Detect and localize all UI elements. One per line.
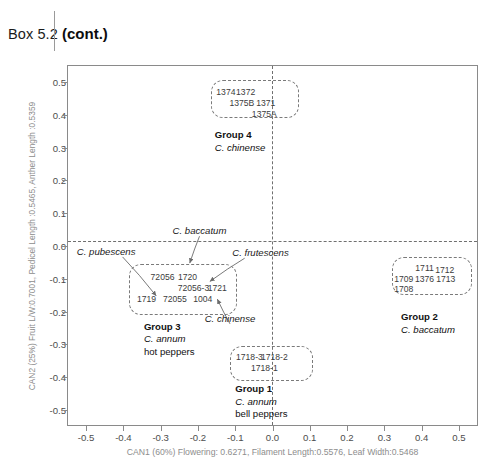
accession-label: 1713 bbox=[436, 274, 455, 284]
group-name: Group 2 bbox=[401, 311, 455, 324]
species-label-c-baccatum: C. baccatum bbox=[173, 225, 227, 236]
x-tick-mark bbox=[422, 426, 423, 431]
accession-label: 1375B bbox=[229, 98, 254, 108]
accession-label: 1004 bbox=[193, 294, 212, 304]
group-caption-group-4: Group 4C. chinense bbox=[215, 129, 266, 154]
accession-label: 1372 bbox=[236, 87, 255, 97]
box-number-label: Box 5.2 bbox=[8, 26, 58, 42]
group-species: C. baccatum bbox=[401, 324, 455, 337]
species-label-c-chinense: C. chinense bbox=[205, 313, 256, 324]
group-common-name: hot peppers bbox=[144, 346, 195, 359]
accession-label: 1721 bbox=[208, 283, 227, 293]
x-tick-mark bbox=[273, 426, 274, 431]
y-tick-label: -0.1 bbox=[26, 273, 66, 284]
accession-label: 1718-1 bbox=[251, 363, 278, 373]
group-species: C. annum bbox=[235, 396, 287, 409]
x-tick-mark bbox=[123, 426, 124, 431]
accession-label: 1708 bbox=[394, 284, 413, 294]
x-axis-title: CAN1 (60%) Flowering: 0.6271, Filament L… bbox=[67, 447, 478, 457]
x-tick-mark bbox=[310, 426, 311, 431]
group-name: Group 4 bbox=[215, 129, 266, 142]
accession-label: 72056-3 bbox=[178, 283, 210, 293]
accession-label: 1719 bbox=[137, 294, 156, 304]
x-tick-mark bbox=[161, 426, 162, 431]
y-tick-label: 0.1 bbox=[26, 208, 66, 219]
y-tick-label: 0.0 bbox=[26, 241, 66, 252]
y-tick-label: 0.4 bbox=[26, 109, 66, 120]
species-label-c-frutescens: C. frutescens bbox=[232, 247, 289, 258]
group-species: C. chinense bbox=[215, 142, 266, 155]
accession-label: 1375A bbox=[252, 109, 277, 119]
group-common-name: bell peppers bbox=[235, 408, 287, 421]
accession-label: 1711 bbox=[415, 263, 433, 273]
group-species: C. annum bbox=[144, 333, 195, 346]
species-label-c-pubescens: C. pubescens bbox=[77, 246, 136, 257]
header-divider bbox=[54, 11, 55, 51]
y-tick-label: -0.4 bbox=[26, 372, 66, 383]
group-name: Group 3 bbox=[144, 321, 195, 334]
group-caption-group-1: Group 1C. annumbell peppers bbox=[235, 383, 287, 421]
group-caption-group-2: Group 2C. baccatum bbox=[401, 311, 455, 336]
accession-label: 1709 bbox=[394, 274, 413, 284]
canonical-discriminant-scatter-plot: CAN2 (25%) Fruit L/W:0.7001, Pedicel Len… bbox=[0, 58, 502, 466]
accession-label: 1720 bbox=[178, 272, 197, 282]
x-tick-mark bbox=[235, 426, 236, 431]
x-tick-label: 0.5 bbox=[436, 432, 482, 443]
accession-label: 1371 bbox=[256, 98, 275, 108]
x-tick-mark bbox=[198, 426, 199, 431]
y-tick-label: 0.2 bbox=[26, 175, 66, 186]
box-header: Box 5.2 (cont.) bbox=[0, 0, 502, 58]
group-caption-group-3: Group 3C. annumhot peppers bbox=[144, 321, 195, 359]
y-tick-label: 0.5 bbox=[26, 76, 66, 87]
continuation-label: (cont.) bbox=[62, 25, 108, 42]
x-tick-mark bbox=[347, 426, 348, 431]
x-tick-mark bbox=[86, 426, 87, 431]
y-tick-label: 0.3 bbox=[26, 142, 66, 153]
y-tick-label: -0.5 bbox=[26, 405, 66, 416]
accession-label: 1376 bbox=[415, 274, 434, 284]
accession-label: 1718-3 bbox=[236, 352, 263, 362]
y-tick-label: -0.2 bbox=[26, 306, 66, 317]
accession-label: 72055 bbox=[163, 294, 187, 304]
x-tick-mark bbox=[384, 426, 385, 431]
accession-label: 72056 bbox=[151, 272, 175, 282]
group-name: Group 1 bbox=[235, 383, 287, 396]
accession-label: 1718-2 bbox=[261, 352, 288, 362]
accession-label: 1712 bbox=[435, 265, 454, 275]
x-tick-mark bbox=[459, 426, 460, 431]
accession-label: 1374 bbox=[216, 87, 235, 97]
y-tick-label: -0.3 bbox=[26, 339, 66, 350]
